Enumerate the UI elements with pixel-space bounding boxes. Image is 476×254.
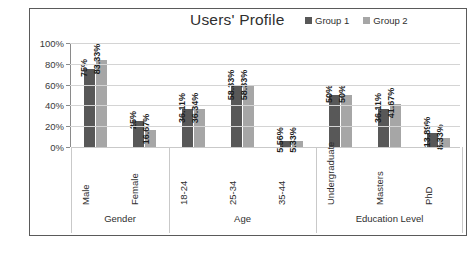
y-axis-tick-label: 60%	[45, 79, 64, 90]
bar-group: 5.56%5.33%	[267, 43, 316, 147]
bar[interactable]: 75%	[84, 69, 95, 147]
group-separator	[71, 147, 72, 205]
legend-label: Group 1	[315, 15, 349, 26]
category-label: Female	[129, 173, 140, 205]
category-label: 35-44	[276, 181, 287, 205]
group-separator	[462, 147, 463, 205]
category-label: 25-34	[227, 181, 238, 205]
bar-value-label: 36.11%	[177, 93, 187, 123]
group-separator	[316, 205, 317, 233]
chart-header: Users' Profile Group 1Group 2	[30, 9, 466, 39]
group-separator	[462, 205, 463, 233]
bar-value-label: 41.67%	[386, 87, 396, 118]
bar-value-label: 13.89%	[422, 116, 432, 147]
y-axis-tick-label: 40%	[45, 100, 64, 111]
bar-group: 50%50%	[316, 43, 365, 147]
y-axis-tick-label: 80%	[45, 58, 64, 69]
y-axis-tick	[66, 85, 70, 86]
bar-value-label: 50%	[337, 85, 347, 103]
group-separator	[316, 147, 317, 205]
bar-group: 36.11%41.67%	[365, 43, 414, 147]
y-axis-tick-label: 0%	[50, 142, 64, 153]
group-separator	[71, 205, 72, 233]
bar-value-label: 36.34%	[190, 93, 200, 124]
bar-group: 13.89%8.33%	[414, 43, 463, 147]
bar-group: 36.11%36.34%	[169, 43, 218, 147]
group-label: Gender	[71, 213, 169, 224]
y-axis-tick	[66, 147, 70, 148]
chart-container: Users' Profile Group 1Group 2 0%20%40%60…	[29, 8, 467, 236]
bar[interactable]: 50%	[341, 95, 352, 147]
bar-value-label: 16.67%	[141, 113, 151, 144]
legend-swatch-icon	[305, 17, 312, 24]
y-axis-tick-label: 20%	[45, 121, 64, 132]
bar-value-label: 50%	[324, 85, 334, 103]
gridline	[70, 105, 460, 106]
category-label: Masters	[374, 171, 385, 205]
bar[interactable]: 16.67%	[145, 130, 156, 147]
category-label: Male	[80, 184, 91, 205]
gridline	[70, 85, 460, 86]
bar[interactable]: 8.33%	[439, 138, 450, 147]
gridline	[70, 126, 460, 127]
legend-swatch-icon	[363, 17, 370, 24]
group-label-band: GenderAgeEducation Level	[71, 205, 460, 233]
legend-item[interactable]: Group 1	[305, 15, 349, 26]
category-label: 18-24	[178, 181, 189, 205]
group-separator	[169, 147, 170, 205]
gridline	[70, 64, 460, 65]
bar-group: 58.33%58.33%	[218, 43, 267, 147]
category-label-band: MaleFemale18-2425-3435-44UndergraduateMa…	[71, 147, 460, 205]
category-label: Undergraduate	[325, 142, 336, 205]
bar-value-label: 83.33%	[92, 44, 102, 75]
chart-legend: Group 1Group 2	[305, 15, 408, 26]
bar[interactable]: 58.33%	[243, 86, 254, 147]
y-axis-tick	[66, 105, 70, 106]
y-axis-tick	[66, 43, 70, 44]
plot-area: 75%83.33%25%16.67%36.11%36.34%58.33%58.3…	[70, 43, 460, 147]
bar-group: 75%83.33%	[71, 43, 120, 147]
group-label: Education Level	[316, 213, 463, 224]
bar-series-group: 75%83.33%25%16.67%36.11%36.34%58.33%58.3…	[71, 43, 460, 147]
gridline	[70, 43, 460, 44]
group-label: Age	[169, 213, 316, 224]
bar[interactable]: 36.34%	[194, 109, 205, 147]
legend-item[interactable]: Group 2	[363, 15, 407, 26]
bar-group: 25%16.67%	[120, 43, 169, 147]
bar-value-label: 75%	[79, 59, 89, 77]
bar[interactable]: 83.33%	[96, 60, 107, 147]
category-label: PhD	[423, 187, 434, 205]
group-separator	[169, 205, 170, 233]
y-axis-tick-label: 100%	[40, 38, 64, 49]
legend-label: Group 2	[373, 15, 407, 26]
y-axis-tick	[66, 126, 70, 127]
y-axis-tick	[66, 64, 70, 65]
chart-title: Users' Profile	[190, 11, 284, 29]
bar-value-label: 36.11%	[373, 93, 383, 123]
